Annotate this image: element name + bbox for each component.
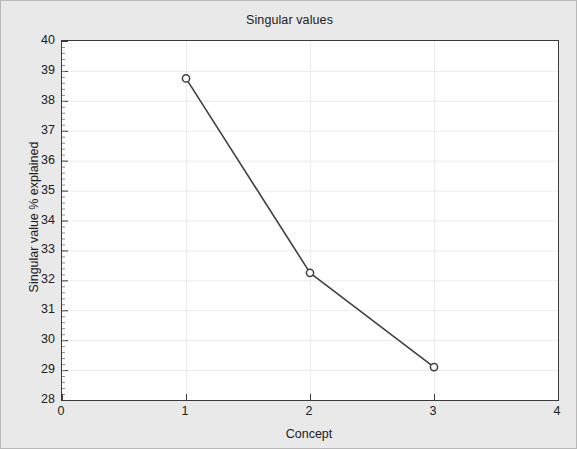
y-tick-label: 40 — [41, 34, 55, 47]
y-tick-label: 29 — [41, 363, 55, 376]
x-tick-label: 4 — [554, 405, 561, 418]
y-tick-label: 28 — [41, 393, 55, 406]
y-axis-title: Singular value % explained — [27, 102, 41, 332]
plot-area — [61, 40, 559, 401]
y-tick-label: 34 — [41, 213, 55, 226]
x-axis-tick-labels: 01234 — [61, 405, 557, 425]
x-tick-label: 3 — [430, 405, 437, 418]
x-tick-label: 0 — [58, 405, 65, 418]
x-tick-label: 2 — [306, 405, 313, 418]
y-tick-label: 38 — [41, 94, 55, 107]
y-tick-label: 31 — [41, 303, 55, 316]
y-tick-label: 32 — [41, 273, 55, 286]
y-tick-label: 30 — [41, 333, 55, 346]
chart-title: Singular values — [1, 13, 577, 27]
y-tick-label: 35 — [41, 183, 55, 196]
y-tick-label: 33 — [41, 243, 55, 256]
y-tick-label: 39 — [41, 64, 55, 77]
x-axis-title: Concept — [61, 427, 557, 441]
x-tick-label: 1 — [182, 405, 189, 418]
y-tick-label: 37 — [41, 124, 55, 137]
y-tick-label: 36 — [41, 153, 55, 166]
data-series-layer — [62, 41, 558, 400]
figure-panel: Singular values 282930313233343536373839… — [0, 0, 577, 449]
